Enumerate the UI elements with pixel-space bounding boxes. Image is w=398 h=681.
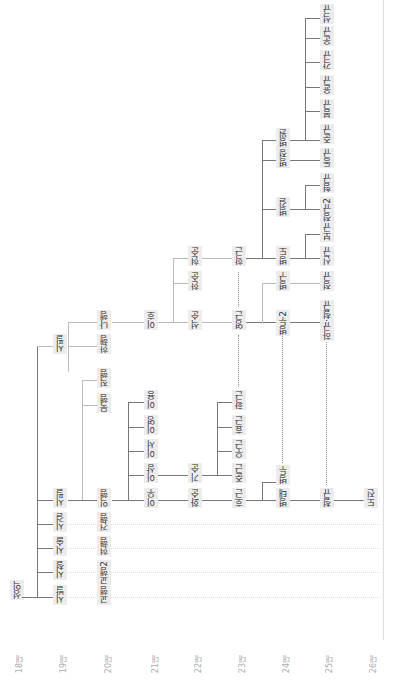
edge — [262, 140, 263, 258]
edge — [217, 402, 232, 403]
gen-label-26: 26대 — [368, 655, 379, 673]
node[interactable]: 기순 — [188, 463, 202, 483]
node[interactable]: 나행 — [97, 310, 111, 330]
node[interactable]: 봉규 — [320, 99, 334, 119]
node[interactable]: 병정 — [276, 148, 290, 168]
node[interactable]: 시발 — [53, 585, 67, 605]
edge — [128, 402, 144, 403]
node[interactable]: 하규·철규 — [320, 300, 334, 341]
node[interactable]: 병태 — [276, 488, 290, 508]
edge — [173, 258, 188, 259]
edge — [262, 209, 276, 210]
node[interactable]: 이상 — [144, 463, 158, 483]
edge — [128, 451, 144, 452]
edge — [305, 38, 320, 39]
node[interactable]: 철규 — [320, 488, 334, 508]
node[interactable]: 학근 — [232, 246, 246, 266]
node[interactable]: 준근 — [232, 463, 246, 483]
edge — [305, 87, 320, 88]
edge — [246, 500, 276, 501]
edge — [262, 482, 276, 483]
edge — [173, 283, 188, 284]
node[interactable]: 이용 — [144, 390, 158, 410]
dotted-link — [238, 335, 239, 387]
gen-label-24: 24대 — [281, 655, 292, 673]
edge — [217, 427, 232, 428]
node[interactable]: 현순 — [188, 246, 202, 266]
edge — [202, 322, 232, 323]
right-border — [383, 0, 384, 640]
node[interactable]: 우근 — [232, 439, 246, 459]
node[interactable]: 정규 — [320, 271, 334, 291]
node[interactable]: 석순 — [188, 310, 202, 330]
edge — [217, 451, 232, 452]
edge — [262, 160, 276, 161]
edge — [334, 500, 364, 501]
node[interactable]: 운규 — [320, 26, 334, 46]
node[interactable]: 동규 — [320, 148, 334, 168]
node[interactable]: 익행 — [97, 488, 111, 508]
node[interactable]: 시필 — [53, 334, 67, 354]
node[interactable]: 정규2 — [320, 197, 334, 223]
node[interactable]: 병원 — [276, 128, 290, 148]
edge — [202, 258, 232, 259]
node[interactable]: 교행2 — [97, 560, 111, 586]
guide-line — [40, 524, 380, 525]
node[interactable]: 이서 — [144, 439, 158, 459]
edge — [305, 185, 320, 186]
node[interactable]: 시걸 — [53, 512, 67, 532]
node[interactable]: 교행 — [97, 585, 111, 605]
node[interactable]: 병도 — [276, 246, 290, 266]
genealogy-diagram: 18대 19대 20대 21대 22대 23대 24대 25대 26대 성익 시… — [0, 0, 398, 681]
node[interactable]: 건행 — [97, 512, 111, 532]
dotted-link — [326, 335, 327, 485]
node[interactable]: 효근 — [232, 415, 246, 435]
edge — [37, 597, 53, 598]
edge — [128, 427, 144, 428]
edge — [290, 500, 320, 501]
dotted-link — [282, 335, 283, 463]
edge — [37, 500, 53, 501]
node[interactable]: 이호 — [144, 310, 158, 330]
edge — [22, 597, 38, 598]
guide-line — [40, 597, 380, 598]
gen-label-21: 21대 — [150, 655, 161, 673]
node[interactable]: 한행 — [97, 334, 111, 354]
gen-label-19: 19대 — [58, 655, 69, 673]
node[interactable]: 묵행 — [97, 393, 111, 413]
node[interactable]: 준규 — [320, 124, 334, 144]
edge — [262, 283, 263, 323]
node[interactable]: 시술 — [53, 536, 67, 556]
node[interactable]: 병길 — [276, 197, 290, 217]
node[interactable]: 신규 — [320, 246, 334, 266]
node[interactable]: 한순 — [188, 271, 202, 291]
node[interactable]: 석규 — [320, 4, 334, 24]
guide-line — [40, 548, 380, 549]
node[interactable]: 영근 — [232, 310, 246, 330]
edge — [305, 62, 320, 63]
node[interactable]: 병구 — [276, 271, 290, 291]
node[interactable]: 이영 — [144, 415, 158, 435]
node[interactable]: 시필 — [53, 488, 67, 508]
node[interactable]: 시철 — [53, 560, 67, 580]
edge — [262, 283, 276, 284]
edge — [202, 475, 217, 476]
node[interactable]: 이우 — [144, 488, 158, 508]
edge — [68, 322, 69, 372]
node[interactable]: 호근 — [232, 488, 246, 508]
node[interactable]: 병두 — [276, 465, 290, 485]
edge — [37, 572, 53, 573]
node[interactable]: 각규 — [320, 50, 334, 70]
node[interactable]: 윤규 — [320, 75, 334, 95]
node[interactable]: 병두2 — [276, 310, 290, 336]
edge — [202, 500, 232, 501]
node[interactable]: 도진 — [364, 488, 378, 508]
node[interactable]: 확근 — [232, 390, 246, 410]
edge — [262, 140, 276, 141]
edge — [37, 548, 53, 549]
node[interactable]: 직행 — [97, 368, 111, 388]
node[interactable]: 화순 — [188, 488, 202, 508]
node[interactable]: 형규 — [320, 173, 334, 193]
node[interactable]: 보규 — [320, 222, 334, 242]
node[interactable]: 현행 — [97, 536, 111, 556]
